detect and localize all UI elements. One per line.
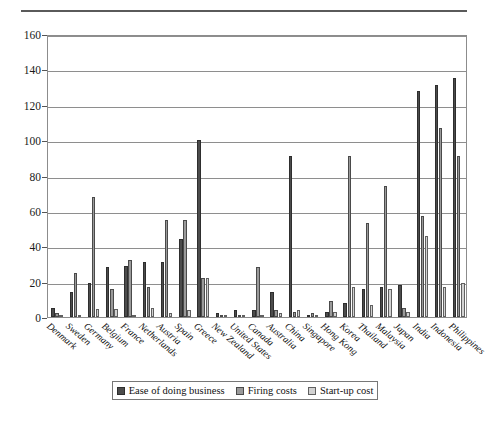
bar-group [435, 36, 450, 317]
bar [128, 260, 131, 317]
y-axis-tick-mark [42, 70, 47, 71]
bar [51, 308, 54, 317]
y-axis-tick-label: 140 [24, 64, 41, 76]
bar [329, 301, 332, 317]
bar [114, 309, 117, 317]
bar [234, 310, 237, 317]
bar [421, 216, 424, 317]
bar [59, 315, 62, 317]
y-axis-tick-mark [42, 212, 47, 213]
bar [417, 91, 420, 317]
bar [366, 223, 369, 317]
legend-label: Firing costs [248, 385, 297, 396]
bar-group [70, 36, 85, 317]
bar [402, 308, 405, 317]
bar [453, 78, 456, 317]
bar [110, 289, 113, 317]
bars-layer [48, 36, 466, 317]
bar [348, 156, 351, 317]
y-axis-tick-label: 120 [24, 100, 41, 112]
bar-group [453, 36, 468, 317]
plot-area [47, 35, 467, 318]
bar [461, 283, 464, 317]
bar [96, 309, 99, 317]
bar-group [343, 36, 358, 317]
y-axis-tick-mark [42, 141, 47, 142]
bar [78, 315, 81, 317]
bar-group [398, 36, 413, 317]
bar [398, 285, 401, 317]
bar-group [289, 36, 304, 317]
bar [315, 315, 318, 317]
bar-group [307, 36, 322, 317]
chart-figure: 020406080100120140160 DenmarkSwedenGerma… [0, 0, 488, 427]
bar [256, 267, 259, 317]
bar [274, 310, 277, 317]
bar [147, 287, 150, 317]
bar-group [234, 36, 249, 317]
bar-group [325, 36, 340, 317]
bar [425, 236, 428, 317]
bar-group [88, 36, 103, 317]
legend-label: Ease of doing business [129, 385, 225, 396]
bar [70, 292, 73, 317]
legend-swatch-icon [308, 387, 316, 395]
bar-group [362, 36, 377, 317]
bar [270, 292, 273, 317]
bar [220, 315, 223, 317]
y-axis-tick-mark [42, 247, 47, 248]
bar [388, 289, 391, 317]
bar [201, 278, 204, 317]
bar [406, 312, 409, 317]
bar [242, 315, 245, 317]
y-axis-tick-label: 40 [30, 241, 42, 253]
bar [380, 287, 383, 317]
bar [260, 315, 263, 317]
bar [439, 128, 442, 317]
bar [289, 156, 292, 317]
bar-group [106, 36, 121, 317]
bar-group [161, 36, 176, 317]
bar [311, 313, 314, 317]
y-axis-tick-mark [42, 283, 47, 284]
legend-item: Start-up cost [308, 385, 373, 396]
bar [325, 312, 328, 317]
bar [343, 303, 346, 317]
bar [169, 313, 172, 317]
top-divider-rule [21, 10, 467, 12]
y-axis-tick-label: 100 [24, 135, 41, 147]
bar-group [417, 36, 432, 317]
bar [206, 278, 209, 317]
bar-group [270, 36, 285, 317]
y-axis-tick-mark [42, 35, 47, 36]
bar [333, 312, 336, 317]
bar [293, 312, 296, 317]
bar [143, 262, 146, 317]
y-axis-tick-label: 0 [35, 312, 41, 324]
bar-group [179, 36, 194, 317]
bar [55, 313, 58, 317]
bar [384, 186, 387, 317]
bar [74, 273, 77, 317]
bar-group [380, 36, 395, 317]
bar [216, 313, 219, 317]
bar [224, 315, 227, 317]
bar [279, 313, 282, 317]
legend-swatch-icon [236, 387, 244, 395]
legend-label: Start-up cost [320, 385, 373, 396]
bar [370, 305, 373, 317]
bar-group [216, 36, 231, 317]
bar [362, 289, 365, 317]
y-axis-tick-mark [42, 318, 47, 319]
bar [92, 197, 95, 317]
bar [165, 220, 168, 317]
bar [132, 315, 135, 317]
y-axis-tick-mark [42, 106, 47, 107]
x-axis-labels: DenmarkSwedenGermanyBelgiumFranceNetherl… [47, 320, 467, 380]
bar [124, 266, 127, 317]
bar [307, 315, 310, 317]
bar [88, 283, 91, 317]
bar [435, 85, 438, 317]
y-axis-tick-label: 20 [30, 277, 42, 289]
bar [161, 262, 164, 317]
